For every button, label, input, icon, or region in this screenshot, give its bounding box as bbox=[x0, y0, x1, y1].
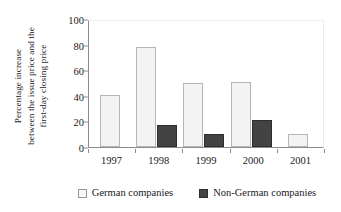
x-axis-tick-labels: 19971998199920002001 bbox=[88, 149, 324, 173]
x-axis-tick-mark bbox=[135, 149, 136, 153]
y-axis-tick-40: 40 bbox=[74, 91, 85, 102]
y-axis-tick-20: 20 bbox=[74, 117, 85, 128]
legend-label-non-german: Non-German companies bbox=[213, 187, 316, 199]
bar-1999-german bbox=[183, 83, 203, 147]
y-axis-tick-labels: 020406080100 bbox=[58, 20, 88, 148]
y-axis-tick-80: 80 bbox=[74, 40, 85, 51]
bar-group-1999 bbox=[183, 21, 230, 147]
x-axis-tick-1999: 1999 bbox=[196, 155, 217, 167]
legend-label-german: German companies bbox=[92, 187, 173, 199]
bar-group-2000 bbox=[231, 21, 278, 147]
x-axis-tick-mark bbox=[277, 149, 278, 153]
bar-group-1997 bbox=[89, 21, 136, 147]
y-axis-tick-100: 100 bbox=[68, 15, 84, 26]
y-axis-tick-60: 60 bbox=[74, 66, 85, 77]
bar-2001-german bbox=[288, 134, 308, 147]
bar-2000-german bbox=[231, 82, 251, 147]
bar-group-2001 bbox=[278, 21, 325, 147]
bar-1999-non-german bbox=[204, 134, 224, 147]
x-axis-tick-1997: 1997 bbox=[101, 155, 122, 167]
y-axis-title-line-1: Percentage increase bbox=[12, 1, 25, 171]
x-axis-tick-mark bbox=[182, 149, 183, 153]
y-axis-title-line-3: first-day closing price bbox=[37, 1, 50, 171]
bar-group-1998 bbox=[136, 21, 183, 147]
legend-swatch-german-icon bbox=[78, 189, 87, 198]
bar-1997-german bbox=[100, 95, 120, 147]
plot-area bbox=[88, 20, 324, 148]
y-axis-title-line-2: between the issue price and the bbox=[25, 1, 38, 171]
legend-item-non-german: Non-German companies bbox=[199, 187, 316, 199]
bar-chart-figure: Percentage increase between the issue pr… bbox=[0, 0, 341, 212]
bar-2000-non-german bbox=[252, 120, 272, 147]
bar-1998-german bbox=[136, 47, 156, 147]
legend-item-german: German companies bbox=[78, 187, 173, 199]
bars-layer bbox=[89, 21, 323, 147]
x-axis-tick-1998: 1998 bbox=[148, 155, 169, 167]
bar-1998-non-german bbox=[157, 125, 177, 147]
x-axis-tick-2001: 2001 bbox=[290, 155, 311, 167]
x-axis-tick-mark bbox=[88, 149, 89, 153]
x-axis-tick-mark bbox=[230, 149, 231, 153]
x-axis-tick-mark bbox=[324, 149, 325, 153]
x-axis-tick-2000: 2000 bbox=[243, 155, 264, 167]
legend-swatch-non-german-icon bbox=[199, 189, 208, 198]
y-axis-title: Percentage increase between the issue pr… bbox=[0, 0, 62, 172]
chart-legend: German companies Non-German companies bbox=[62, 184, 332, 202]
